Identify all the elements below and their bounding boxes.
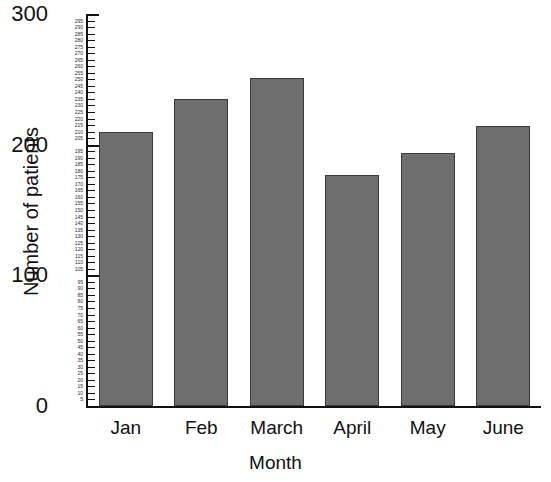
y-tick-minor-label: 295	[53, 19, 83, 24]
y-tick-minor-label: 50	[53, 339, 83, 344]
y-tick-minor	[88, 321, 95, 322]
y-tick-minor-label: 265	[53, 58, 83, 63]
y-tick-minor-label: 30	[53, 365, 83, 370]
x-tick-label-march: March	[239, 418, 315, 438]
y-tick-minor-label: 85	[53, 293, 83, 298]
y-tick-minor-label: 220	[53, 117, 83, 122]
y-tick-minor-label: 20	[53, 378, 83, 383]
y-tick-minor	[88, 151, 95, 152]
y-tick-minor	[88, 112, 95, 113]
y-tick-minor-label: 290	[53, 25, 83, 30]
y-tick-minor-label: 165	[53, 188, 83, 193]
y-tick-minor	[88, 249, 95, 250]
y-tick-minor	[88, 236, 95, 237]
y-tick-minor	[88, 308, 95, 309]
y-tick-minor-label: 190	[53, 156, 83, 161]
y-tick-minor-label: 250	[53, 77, 83, 82]
y-tick-minor-label: 195	[53, 149, 83, 154]
y-tick-minor	[88, 119, 95, 120]
y-tick-minor-label: 210	[53, 130, 83, 135]
y-tick-minor-label: 255	[53, 71, 83, 76]
y-tick-minor	[88, 79, 95, 80]
y-tick-minor	[88, 53, 95, 54]
y-tick-minor	[88, 125, 95, 126]
y-tick-minor	[88, 315, 95, 316]
y-tick-minor	[88, 47, 95, 48]
y-tick-minor-label: 230	[53, 103, 83, 108]
y-tick-minor-label: 175	[53, 175, 83, 180]
y-tick-minor	[88, 60, 95, 61]
y-tick-minor-label: 235	[53, 97, 83, 102]
y-tick-minor-label: 80	[53, 299, 83, 304]
y-tick-minor	[88, 373, 95, 374]
y-tick-minor	[88, 230, 95, 231]
y-tick-minor-label: 125	[53, 241, 83, 246]
y-tick-major	[88, 145, 99, 147]
y-tick-minor-label: 145	[53, 215, 83, 220]
y-tick-minor-label: 45	[53, 345, 83, 350]
y-tick-minor	[88, 262, 95, 263]
y-tick-minor-label: 40	[53, 352, 83, 357]
y-tick-minor	[88, 21, 95, 22]
y-tick-minor-label: 135	[53, 228, 83, 233]
y-tick-minor-label: 140	[53, 221, 83, 226]
y-tick-minor-label: 160	[53, 195, 83, 200]
y-tick-minor	[88, 393, 95, 394]
y-tick-major-label: 100	[0, 264, 48, 286]
y-tick-minor	[88, 197, 95, 198]
y-tick-minor-label: 285	[53, 32, 83, 37]
y-tick-minor-label: 185	[53, 162, 83, 167]
y-tick-minor-label: 5	[53, 397, 83, 402]
y-tick-minor	[88, 341, 95, 342]
y-tick-minor-label: 70	[53, 313, 83, 318]
y-tick-minor	[88, 92, 95, 93]
y-tick-minor	[88, 269, 95, 270]
y-tick-minor	[88, 158, 95, 159]
y-tick-minor-label: 215	[53, 123, 83, 128]
y-tick-minor	[88, 34, 95, 35]
y-tick-minor-label: 65	[53, 319, 83, 324]
y-tick-minor	[88, 301, 95, 302]
y-tick-minor-label: 60	[53, 326, 83, 331]
y-tick-minor	[88, 66, 95, 67]
y-tick-minor	[88, 138, 95, 139]
y-tick-minor	[88, 347, 95, 348]
y-tick-minor-label: 170	[53, 182, 83, 187]
plot-area	[86, 14, 541, 408]
y-tick-minor-label: 275	[53, 45, 83, 50]
bar-feb	[174, 99, 228, 406]
y-tick-minor	[88, 105, 95, 106]
y-tick-minor	[88, 73, 95, 74]
y-tick-minor	[88, 217, 95, 218]
y-tick-minor-label: 245	[53, 84, 83, 89]
y-tick-minor	[88, 86, 95, 87]
y-tick-minor-label: 240	[53, 90, 83, 95]
y-tick-minor-label: 180	[53, 169, 83, 174]
y-tick-minor-label: 260	[53, 64, 83, 69]
x-tick-label-jan: Jan	[88, 418, 164, 438]
y-tick-minor	[88, 203, 95, 204]
y-tick-minor	[88, 380, 95, 381]
y-tick-minor-label: 115	[53, 254, 83, 259]
y-tick-minor	[88, 367, 95, 368]
y-tick-minor	[88, 256, 95, 257]
y-tick-minor	[88, 295, 95, 296]
bar-jan	[99, 132, 153, 406]
y-tick-minor	[88, 171, 95, 172]
bars-layer	[88, 14, 541, 406]
y-tick-major-label: 200	[0, 134, 48, 156]
y-tick-minor-label: 10	[53, 391, 83, 396]
y-tick-minor-label: 35	[53, 358, 83, 363]
x-tick-label-feb: Feb	[164, 418, 240, 438]
y-tick-minor-label: 280	[53, 38, 83, 43]
y-tick-minor	[88, 132, 95, 133]
y-tick-minor-label: 205	[53, 136, 83, 141]
y-tick-major	[88, 406, 99, 408]
y-tick-minor	[88, 360, 95, 361]
y-tick-minor	[88, 177, 95, 178]
y-tick-minor-label: 130	[53, 234, 83, 239]
y-tick-minor	[88, 223, 95, 224]
bar-april	[325, 175, 379, 406]
y-tick-minor	[88, 282, 95, 283]
y-tick-minor	[88, 328, 95, 329]
